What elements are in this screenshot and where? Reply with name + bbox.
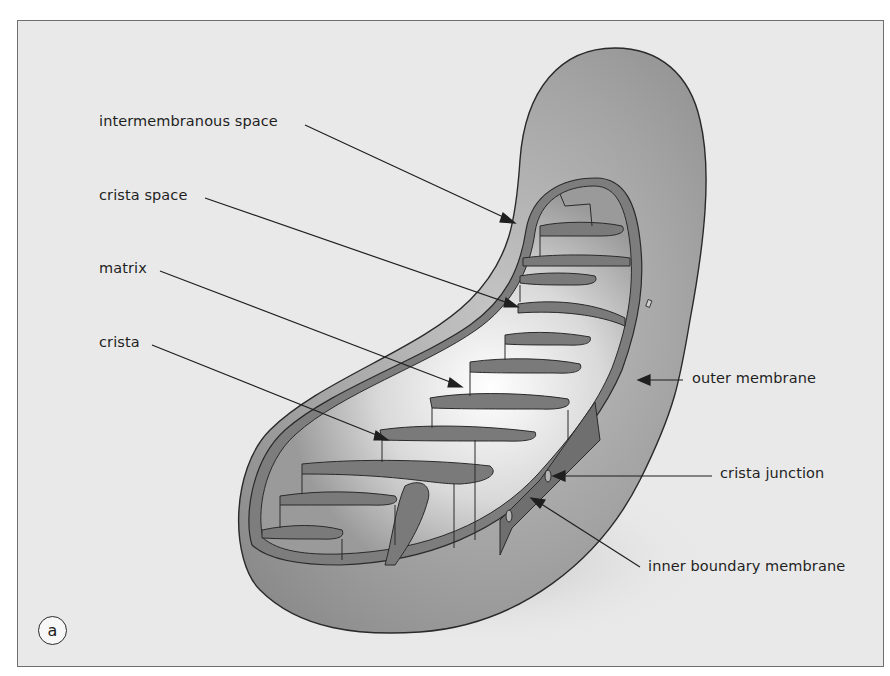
- label-matrix: matrix: [99, 260, 147, 276]
- label-crista-space: crista space: [99, 187, 187, 203]
- label-crista-junction: crista junction: [720, 465, 824, 481]
- label-outer-membrane: outer membrane: [692, 370, 816, 386]
- crista-junction-oval-2: [506, 510, 512, 522]
- label-intermembranous-space: intermembranous space: [99, 113, 278, 129]
- label-crista: crista: [99, 334, 140, 350]
- panel-label-text: a: [48, 621, 58, 640]
- panel-label-badge: a: [38, 616, 67, 645]
- crista-junction-oval-1: [545, 470, 551, 482]
- label-inner-boundary-membrane: inner boundary membrane: [648, 558, 845, 574]
